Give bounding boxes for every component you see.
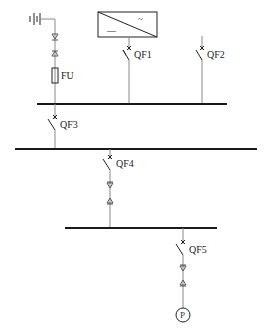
inverter-dc-symbol: — — [106, 25, 117, 35]
breaker-qf2-label: QF2 — [207, 49, 225, 60]
breaker-qf1-label: QF1 — [134, 49, 152, 60]
pump-feeder: QF5 P — [176, 228, 207, 322]
battery-icon — [30, 13, 40, 25]
breaker-qf5-label: QF5 — [189, 244, 207, 255]
breaker-qf4-icon — [103, 155, 113, 170]
breaker-qf3-icon — [48, 115, 58, 130]
inverter-ac-symbol: ~ — [138, 14, 143, 24]
pump-label: P — [180, 310, 185, 320]
breaker-qf5-icon — [176, 240, 186, 255]
qf2-feeder: QF2 — [196, 36, 225, 104]
battery-feeder: FU — [30, 13, 75, 104]
inverter-icon: ~ — — [98, 12, 157, 37]
breaker-qf3-label: QF3 — [60, 119, 78, 130]
fuse-label: FU — [61, 70, 75, 81]
breaker-qf4-label: QF4 — [116, 158, 134, 169]
pump-icon: P — [176, 308, 190, 322]
breaker-qf2-icon — [196, 46, 205, 60]
single-line-diagram: FU ~ — QF1 QF2 — [0, 0, 264, 330]
inverter-feeder: ~ — QF1 — [98, 12, 157, 104]
qf4-feeder: QF4 — [103, 149, 134, 228]
qf3-feeder: QF3 — [48, 104, 78, 149]
